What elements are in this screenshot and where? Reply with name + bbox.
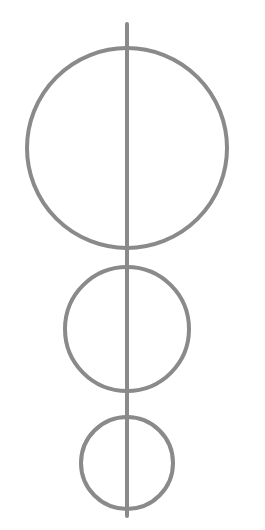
diagram-svg <box>0 0 265 530</box>
diagram-background <box>0 0 265 530</box>
diagram-canvas <box>0 0 265 530</box>
